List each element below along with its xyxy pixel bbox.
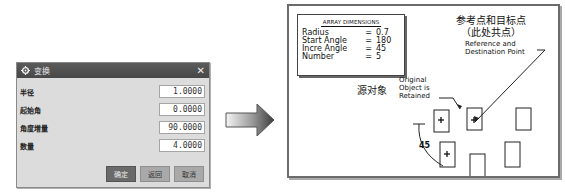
radius-row: 半径 1.0000	[20, 84, 205, 99]
dialog-titlebar[interactable]: 变换 ✕	[17, 63, 209, 78]
start-angle-input[interactable]: 0.0000	[159, 103, 205, 116]
angle-increment-label: 角度增量	[20, 123, 159, 133]
radius-label: 半径	[20, 87, 159, 97]
ok-button[interactable]: 确定	[106, 166, 136, 182]
count-input[interactable]: 4.0000	[159, 139, 205, 152]
dialog-buttons: 确定 返回 取消	[106, 166, 204, 182]
right-arrow-icon	[225, 103, 275, 137]
array-illustration: ARRAY DIMENSIONS Radius=0.7 Start Angle=…	[287, 4, 560, 178]
angle-increment-input[interactable]: 90.0000	[159, 121, 205, 134]
cancel-button[interactable]: 取消	[174, 166, 204, 182]
transform-dialog: 变换 ✕ 半径 1.0000 起始角 0.0000 角度增量 90.0000 数…	[16, 62, 210, 188]
count-row: 数量 4.0000	[20, 138, 205, 153]
back-button[interactable]: 返回	[140, 166, 170, 182]
close-icon[interactable]: ✕	[197, 65, 205, 76]
radius-input[interactable]: 1.0000	[159, 85, 205, 98]
array-diagram	[289, 6, 558, 176]
gear-icon	[21, 66, 30, 75]
start-angle-label: 起始角	[20, 105, 159, 115]
angle-increment-row: 角度增量 90.0000	[20, 120, 205, 135]
dialog-title: 变换	[34, 65, 197, 76]
count-label: 数量	[20, 141, 159, 151]
start-angle-row: 起始角 0.0000	[20, 102, 205, 117]
